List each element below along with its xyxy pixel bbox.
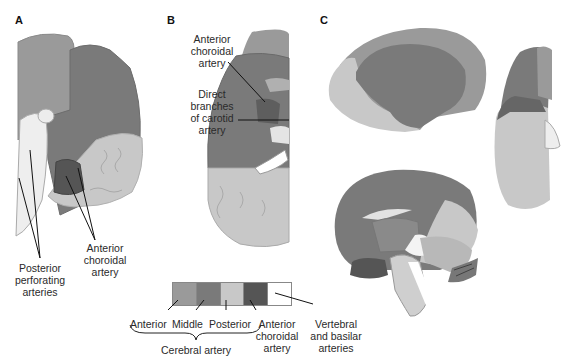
legend-label-anterior: Anterior	[130, 318, 167, 330]
label-line: artery	[252, 342, 302, 354]
legend-label-vertebral-basilar: Vertebral and basilar arteries	[300, 318, 372, 354]
label-line: Vertebral	[300, 318, 372, 330]
legend-label-middle: Middle	[172, 318, 203, 330]
legend-label-posterior: Posterior	[209, 318, 251, 330]
label-line: and basilar	[300, 330, 372, 342]
legend-group-label: Cerebral artery	[154, 344, 238, 356]
legend-label-anterior-choroidal: Anterior choroidal artery	[252, 318, 302, 354]
label-line: choroidal	[252, 330, 302, 342]
label-line: Anterior	[252, 318, 302, 330]
figure-root: A B C Anterior choroidal artery Posterio…	[0, 0, 573, 364]
label-line: arteries	[300, 342, 372, 354]
legend-leaders	[0, 0, 573, 364]
